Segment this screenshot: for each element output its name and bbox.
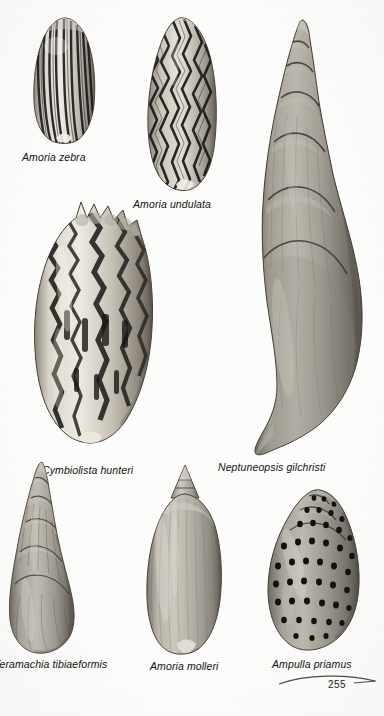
caption-teramachia-tibiaeformis: Teramachia tibiaeformis — [0, 658, 107, 670]
shell-image-amoria-zebra — [26, 16, 104, 144]
caption-neptuneopsis-gilchristi: Neptuneopsis gilchristi — [218, 461, 325, 473]
caption-amoria-molleri: Amoria molleri — [150, 660, 219, 672]
page-number: 255 — [328, 679, 346, 690]
shell-image-cymbiolista-hunteri — [24, 198, 166, 450]
shell-image-ampulla-priamus — [262, 484, 366, 654]
shell-image-amoria-molleri — [141, 464, 227, 656]
shell-image-teramachia-tibiaeformis — [4, 460, 88, 656]
caption-ampulla-priamus: Ampulla priamus — [272, 658, 352, 670]
shell-image-neptuneopsis-gilchristi — [243, 18, 373, 458]
caption-amoria-zebra: Amoria zebra — [22, 151, 86, 163]
book-plate: Amoria zebra — [0, 0, 384, 716]
shell-image-amoria-undulata — [138, 16, 228, 192]
